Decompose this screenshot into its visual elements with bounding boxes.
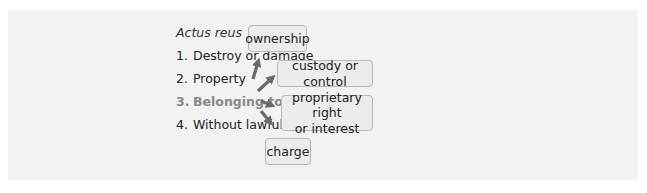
box-custody-or-control: custody or control: [277, 60, 373, 87]
box-charge: charge: [265, 138, 311, 165]
box-ownership: ownership: [248, 25, 307, 52]
arrow-to-charge: [261, 111, 270, 122]
box-line-1: proprietary right: [282, 90, 372, 121]
arrow-to-ownership: [253, 62, 258, 79]
box-line-2: or interest: [295, 121, 360, 137]
box-proprietary-right-or-interest: proprietary right or interest: [281, 95, 373, 131]
arrow-to-proprietary: [261, 101, 271, 105]
arrow-to-custody: [258, 78, 272, 91]
